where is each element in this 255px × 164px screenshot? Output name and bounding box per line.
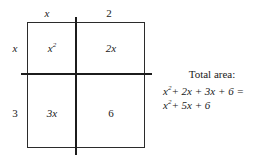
column-label-2: 2 <box>98 7 120 19</box>
area-model-diagram: x 2 x 3 x2 2x 3x 6 Total area: x2+ 2x + … <box>0 0 255 164</box>
cell-top-right-value: 2x <box>80 42 142 55</box>
expanded-line-rest: + 2x + 3x + 6 = <box>171 85 243 97</box>
cell-top-left-exponent: 2 <box>53 41 57 49</box>
column-label-x: x <box>36 7 58 19</box>
cell-bottom-left-value: 3x <box>30 107 74 120</box>
total-area-simplified-line: x2+ 5x + 6 <box>163 98 255 112</box>
cell-top-left-value: x2 <box>30 42 74 55</box>
row-label-3: 3 <box>8 107 22 119</box>
total-area-heading: Total area: <box>163 67 255 81</box>
horizontal-divider-line <box>21 73 152 75</box>
simplified-line-rest: + 5x + 6 <box>171 99 210 111</box>
vertical-divider-line <box>75 17 77 155</box>
area-model-outline <box>27 22 145 148</box>
total-area-annotation: Total area: x2+ 2x + 3x + 6 = x2+ 5x + 6 <box>163 67 255 112</box>
total-area-expanded-line: x2+ 2x + 3x + 6 = <box>163 84 255 98</box>
row-label-x: x <box>8 42 22 54</box>
cell-bottom-right-value: 6 <box>80 107 142 120</box>
